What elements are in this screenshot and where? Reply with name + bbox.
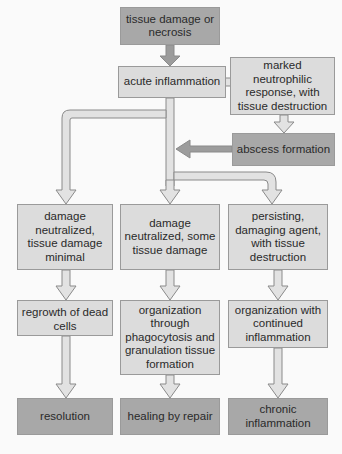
node-label: persisting, damaging agent, with tissue …: [231, 210, 325, 264]
node-label: marked neutrophilic response, with tissu…: [233, 59, 332, 113]
node-label: acute inflammation: [124, 75, 221, 89]
node-label: organization with continued inflammation: [231, 304, 325, 345]
node-organization-continued: organization with continued inflammation: [228, 300, 328, 348]
node-neutrophilic-response: marked neutrophilic response, with tissu…: [230, 57, 335, 115]
node-regrowth: regrowth of dead cells: [17, 300, 113, 336]
node-damage-some: damage neutralized, some tissue damage: [120, 204, 220, 270]
node-healing-by-repair: healing by repair: [120, 398, 220, 435]
node-damage-minimal: damage neutralized, tissue damage minima…: [17, 204, 113, 270]
node-label: tissue damage or necrosis: [123, 13, 217, 40]
node-label: organization through phagocytosis and gr…: [123, 304, 217, 372]
node-label: chronic inflammation: [231, 403, 325, 430]
node-abscess-formation: abscess formation: [232, 133, 335, 166]
node-label: healing by repair: [127, 410, 212, 424]
node-label: regrowth of dead cells: [20, 306, 110, 333]
node-resolution: resolution: [17, 398, 113, 435]
node-persisting-agent: persisting, damaging agent, with tissue …: [228, 204, 328, 270]
node-chronic-inflammation: chronic inflammation: [228, 398, 328, 435]
node-label: damage neutralized, some tissue damage: [123, 217, 217, 258]
node-label: resolution: [40, 410, 90, 424]
node-tissue-damage: tissue damage or necrosis: [120, 7, 220, 45]
node-organization-phagocytosis: organization through phagocytosis and gr…: [120, 300, 220, 375]
node-label: abscess formation: [237, 143, 330, 157]
node-label: damage neutralized, tissue damage minima…: [20, 210, 110, 264]
node-acute-inflammation: acute inflammation: [118, 66, 226, 98]
